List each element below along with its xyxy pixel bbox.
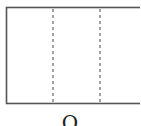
folded-rectangle-diagram xyxy=(0,0,140,126)
panel-caption: O xyxy=(0,113,140,126)
outer-rectangle xyxy=(7,8,141,104)
